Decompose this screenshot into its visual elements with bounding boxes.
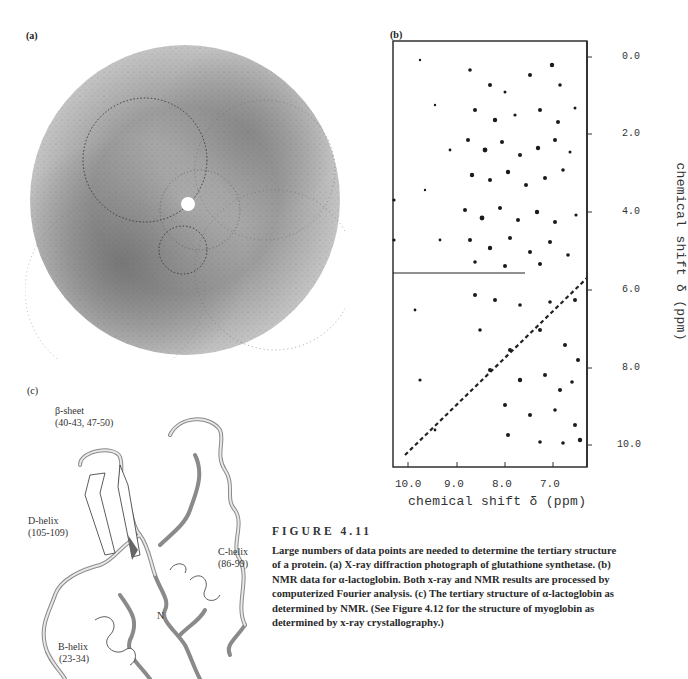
y-tick-4: 4.0 <box>622 206 640 217</box>
beta-sheet-range: (40-43, 47-50) <box>55 417 113 429</box>
y-tick-0: 0.0 <box>622 51 640 62</box>
x-tick-9: 9.0 <box>444 478 464 490</box>
x-axis-label: chemical shift δ (ppm) <box>408 494 586 509</box>
n-terminus-label: N <box>157 610 164 622</box>
d-helix-range: (105-109) <box>28 527 68 539</box>
nmr-spectrum-plot <box>380 30 610 480</box>
y-tick-8: 8.0 <box>622 362 640 373</box>
y-axis-label: chemical shift δ (ppm) <box>673 163 688 333</box>
figure-number: FIGURE 4.11 <box>272 525 372 537</box>
x-tick-7: 7.0 <box>540 478 560 490</box>
x-tick-8: 8.0 <box>492 478 512 490</box>
c-helix-range: (86-99) <box>218 558 248 570</box>
b-helix-label: B-helix <box>58 641 88 653</box>
d-helix-label: D-helix <box>28 515 59 527</box>
y-tick-10: 10.0 <box>617 439 641 450</box>
beta-sheet-label: β-sheet <box>55 405 84 417</box>
y-tick-2: 2.0 <box>622 128 640 139</box>
xray-diffraction-image <box>25 40 345 360</box>
figure-caption: Large numbers of data points are needed … <box>272 544 617 630</box>
b-helix-range: (23-34) <box>59 653 89 665</box>
c-helix-label: C-helix <box>218 546 248 558</box>
x-tick-10: 10.0 <box>395 478 421 490</box>
y-tick-6: 6.0 <box>622 284 640 295</box>
